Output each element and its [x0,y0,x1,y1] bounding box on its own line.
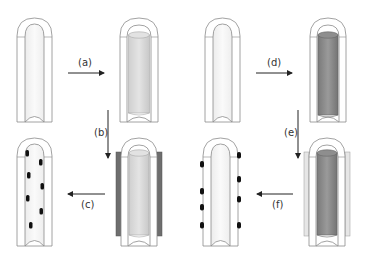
step-label-f: (f) [272,200,283,210]
empty-tube-left [17,18,52,122]
light-rod-tube [120,18,158,122]
empty-tube-right [205,18,240,122]
dark-sleeve-tube [116,138,162,246]
step-label-a: (a) [78,58,92,68]
step-label-c: (c) [81,200,94,210]
inner-particles-tube [17,138,52,246]
dark-rod-tube [310,18,346,122]
step-label-e: (e) [284,128,298,138]
light-sleeve-tube [304,138,350,246]
outer-particles-tube [200,138,241,246]
step-label-d: (d) [267,58,281,68]
process-diagram [0,0,366,253]
step-label-b: (b) [94,128,108,138]
